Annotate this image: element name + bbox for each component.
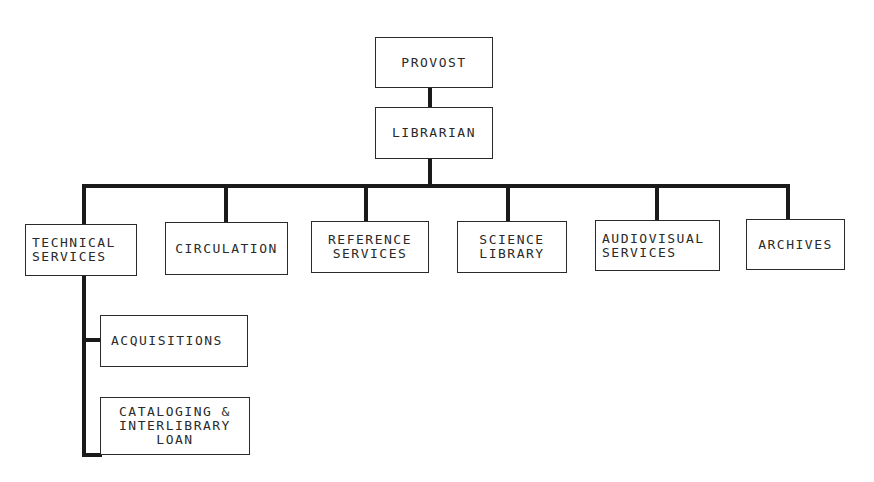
connector-technical-sub-trunk: [82, 275, 86, 457]
drop-archives: [786, 184, 790, 220]
horizontal-bus: [82, 184, 790, 188]
drop-reference-services: [364, 184, 368, 222]
drop-technical-services: [82, 184, 86, 226]
node-label: ACQUISITIONS: [107, 334, 223, 348]
node-archives: ARCHIVES: [746, 219, 845, 270]
node-circulation: CIRCULATION: [165, 222, 288, 275]
node-technical-services: TECHNICAL SERVICES: [25, 224, 137, 276]
node-label: CIRCULATION: [175, 242, 278, 256]
node-librarian: LIBRARIAN: [375, 107, 493, 159]
connector-provost-librarian: [428, 87, 432, 108]
node-reference-services: REFERENCE SERVICES: [311, 221, 429, 273]
node-provost: PROVOST: [375, 37, 493, 88]
connector-librarian-bus: [428, 158, 432, 186]
connector-cataloging: [82, 453, 102, 457]
node-label: AUDIOVISUAL SERVICES: [602, 232, 705, 260]
node-acquisitions: ACQUISITIONS: [100, 315, 248, 367]
drop-audiovisual-services: [655, 184, 659, 220]
node-label: SCIENCE LIBRARY: [479, 233, 544, 261]
node-cataloging: CATALOGING & INTERLIBRARY LOAN: [100, 397, 250, 455]
node-label: LIBRARIAN: [392, 126, 476, 140]
connector-acquisitions: [82, 338, 102, 342]
node-label: TECHNICAL SERVICES: [32, 236, 116, 264]
node-label: ARCHIVES: [758, 238, 833, 252]
node-label: PROVOST: [401, 56, 466, 70]
node-audiovisual-services: AUDIOVISUAL SERVICES: [595, 220, 720, 271]
drop-circulation: [224, 184, 228, 224]
node-label: CATALOGING & INTERLIBRARY LOAN: [119, 405, 231, 447]
node-label: REFERENCE SERVICES: [328, 233, 412, 261]
node-science-library: SCIENCE LIBRARY: [457, 221, 567, 273]
drop-science-library: [506, 184, 510, 222]
